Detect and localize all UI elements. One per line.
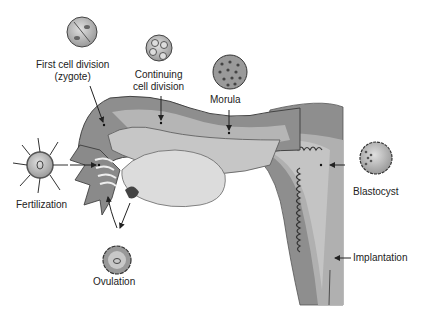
label-fertilization: Fertilization bbox=[16, 199, 67, 211]
label-blastocyst: Blastocyst bbox=[353, 186, 399, 198]
ovary bbox=[122, 150, 225, 207]
label-continuing-cell-division: Continuing cell division bbox=[133, 69, 184, 93]
label-first-cell-division: First cell division (zygote) bbox=[36, 59, 109, 83]
label-morula: Morula bbox=[210, 94, 241, 106]
zygote-cell-icon bbox=[67, 17, 97, 47]
label-implantation: Implantation bbox=[353, 252, 407, 264]
label-line: (zygote) bbox=[36, 71, 109, 83]
fertilization-diagram bbox=[0, 0, 426, 319]
label-line: First cell division bbox=[36, 59, 109, 71]
morula-icon bbox=[213, 55, 247, 89]
label-ovulation: Ovulation bbox=[93, 276, 135, 288]
ovum-icon bbox=[103, 246, 131, 274]
label-line: Continuing bbox=[133, 69, 184, 81]
four-cell-icon bbox=[146, 35, 172, 61]
blastocyst-icon bbox=[360, 142, 392, 174]
label-line: cell division bbox=[133, 81, 184, 93]
fertilized-egg-icon bbox=[13, 138, 68, 193]
